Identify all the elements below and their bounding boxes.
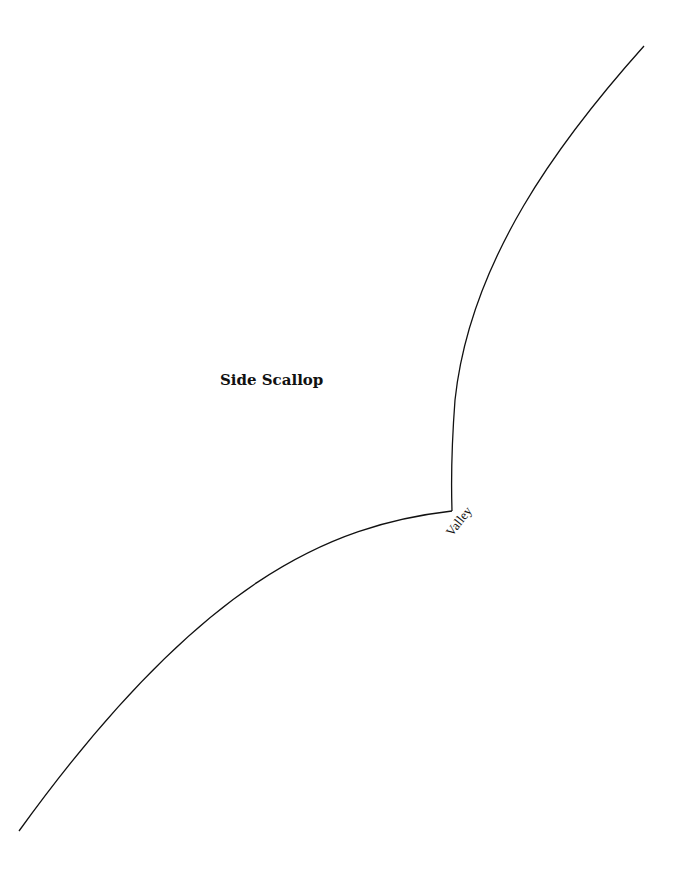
pattern-title: Side Scallop (220, 371, 323, 389)
pattern-canvas: Side Scallop Valley (0, 0, 680, 879)
valley-label: Valley (443, 503, 476, 539)
scallop-upper-curve (452, 46, 644, 511)
scallop-lower-curve (19, 511, 452, 831)
